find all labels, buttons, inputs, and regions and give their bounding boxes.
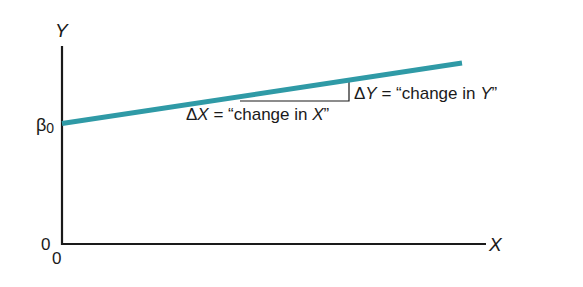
delta-x-symbol: Δ (186, 105, 197, 124)
regression-diagram: Y X 0 0 β0 ΔY = “change in Y” ΔX = “chan… (0, 0, 583, 287)
intercept-subscript: 0 (46, 120, 54, 136)
delta-x-var: X (196, 105, 209, 124)
x-axis-label: X (488, 234, 503, 255)
delta-y-eq: = “change in (377, 84, 481, 103)
delta-y-label: ΔY = “change in Y” (354, 84, 498, 103)
delta-x-var2: X (311, 105, 324, 124)
intercept-beta: β (36, 115, 46, 135)
delta-y-close: ” (492, 84, 498, 103)
intercept-label: β0 (36, 115, 54, 136)
delta-x-close: ” (324, 105, 330, 124)
delta-x-eq: = “change in (209, 105, 313, 124)
delta-x-label: ΔX = “change in X” (186, 105, 330, 124)
x-origin-label: 0 (52, 249, 61, 268)
delta-y-symbol: Δ (354, 84, 365, 103)
y-axis-label: Y (55, 20, 69, 41)
y-origin-label: 0 (41, 235, 50, 254)
